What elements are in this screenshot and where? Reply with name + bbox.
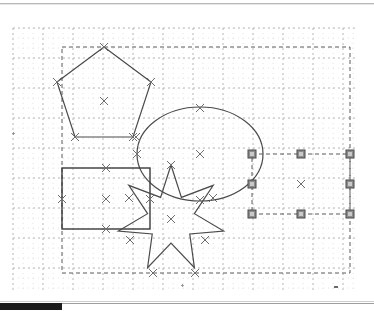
drawing-canvas[interactable] <box>0 6 374 302</box>
shape-center-marker-x-icon[interactable] <box>297 180 305 188</box>
handle-bottom-center[interactable] <box>297 210 305 218</box>
handle-middle-right[interactable] <box>346 180 354 188</box>
handle-bottom-left[interactable] <box>248 210 256 218</box>
node-marker-x-icon[interactable] <box>147 78 155 86</box>
node-marker-x-icon[interactable] <box>209 194 217 202</box>
star-shape[interactable] <box>118 165 223 268</box>
node-marker-x-icon[interactable] <box>125 194 133 202</box>
horizontal-scrollbar-thumb[interactable] <box>0 303 62 310</box>
vertical-scrollbar[interactable] <box>370 6 374 302</box>
handle-top-right[interactable] <box>346 150 354 158</box>
horizontal-scrollbar[interactable] <box>0 301 374 311</box>
grid-layer <box>13 28 356 292</box>
pentagon-shape[interactable] <box>57 47 151 137</box>
node-marker-x-icon[interactable] <box>201 236 209 244</box>
node-marker-x-icon[interactable] <box>167 161 175 169</box>
horizontal-scrollbar-track[interactable] <box>62 303 374 304</box>
handle-top-left[interactable] <box>248 150 256 158</box>
shape-center-marker-x-icon[interactable] <box>167 215 175 223</box>
node-marker-x-icon[interactable] <box>53 78 61 86</box>
canvas-vector-layer[interactable] <box>0 6 374 302</box>
origin-tick-marks <box>12 132 338 288</box>
application-window <box>0 0 374 311</box>
toolbar-separator-shadow <box>0 4 374 5</box>
handle-bottom-right[interactable] <box>346 210 354 218</box>
handle-middle-left[interactable] <box>248 180 256 188</box>
handle-top-center[interactable] <box>297 150 305 158</box>
